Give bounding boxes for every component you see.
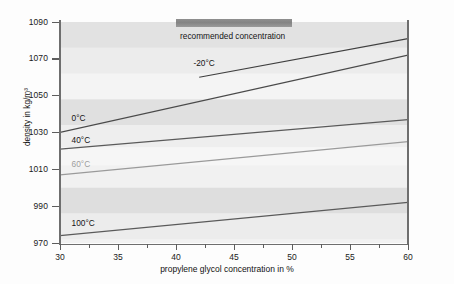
x-axis-title: propylene glycol concentration in % xyxy=(0,264,454,274)
x-tick-label: 45 xyxy=(229,252,238,262)
x-tick-minor xyxy=(379,244,380,248)
y-tick-label: 970 xyxy=(34,238,48,248)
background-band xyxy=(60,125,408,147)
x-tick-label: 50 xyxy=(287,252,296,262)
x-tick-label: 30 xyxy=(55,252,64,262)
x-tick-label: 40 xyxy=(171,252,180,262)
x-tick-minor xyxy=(321,244,322,248)
curve-label-0C: 0°C xyxy=(72,113,86,123)
y-tick xyxy=(52,243,59,244)
x-tick-minor xyxy=(205,244,206,248)
x-tick-label: 55 xyxy=(345,252,354,262)
background-band xyxy=(60,188,408,214)
x-tick xyxy=(292,244,293,250)
plot-canvas xyxy=(60,22,408,243)
x-tick xyxy=(350,244,351,250)
curve-label-100C: 100°C xyxy=(72,218,95,228)
curve-label-60C: 60°C xyxy=(72,159,91,169)
y-tick-label: 990 xyxy=(34,201,48,211)
x-tick xyxy=(408,244,409,250)
x-tick xyxy=(176,244,177,250)
x-tick xyxy=(60,244,61,250)
recommended-concentration-label: recommended concentration xyxy=(180,31,285,41)
y-tick xyxy=(52,132,59,133)
y-tick xyxy=(52,206,59,207)
background-band xyxy=(60,74,408,100)
y-axis-title: density in kg/m³ xyxy=(22,57,32,177)
x-tick-minor xyxy=(89,244,90,248)
recommended-concentration-bar xyxy=(176,19,292,27)
background-band xyxy=(60,166,408,188)
background-band xyxy=(60,147,408,165)
x-tick-label: 60 xyxy=(403,252,412,262)
curve-label-40C: 40°C xyxy=(72,135,91,145)
right-axis-line xyxy=(407,20,409,245)
curve-label--20C: -20°C xyxy=(193,58,214,68)
y-tick xyxy=(52,22,59,23)
x-tick xyxy=(118,244,119,250)
y-tick xyxy=(52,169,59,170)
background-band xyxy=(60,214,408,240)
y-tick xyxy=(52,95,59,96)
plot-area xyxy=(60,22,408,243)
y-tick-label: 1090 xyxy=(29,17,48,27)
y-axis-line xyxy=(59,20,61,245)
background-band xyxy=(60,239,408,243)
y-tick xyxy=(52,58,59,59)
density-concentration-chart: 97099010101030105010701090 3035404550556… xyxy=(0,0,454,284)
x-tick-minor xyxy=(263,244,264,248)
x-tick-label: 35 xyxy=(113,252,122,262)
x-tick xyxy=(234,244,235,250)
background-band xyxy=(60,48,408,74)
x-tick-minor xyxy=(147,244,148,248)
